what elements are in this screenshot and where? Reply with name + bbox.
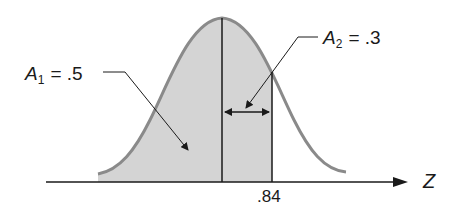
a1-sub: 1	[38, 73, 45, 87]
z-axis-label: Z	[422, 170, 436, 192]
a2-label: A2= .3	[322, 27, 381, 51]
a1-var: A	[24, 63, 38, 84]
a2-var: A	[322, 27, 336, 48]
a1-label: A1= .5	[24, 63, 83, 87]
a2-eq: = .3	[348, 27, 380, 48]
normal-curve-diagram: A1= .5 A2= .3 .84 Z	[0, 0, 457, 208]
a1-eq: = .5	[50, 63, 82, 84]
z-tick-label: .84	[257, 187, 281, 206]
axis-arrow-icon	[393, 177, 408, 187]
a2-sub: 2	[336, 37, 343, 51]
